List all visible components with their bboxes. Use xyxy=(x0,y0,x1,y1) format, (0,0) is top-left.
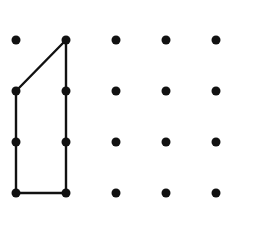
grid-dot-r0-c4 xyxy=(212,36,221,45)
grid-dot-r1-c0 xyxy=(12,87,21,96)
grid-dot-r1-c3 xyxy=(162,87,171,96)
grid-dot-r3-c0 xyxy=(12,189,21,198)
trapezoid-shape xyxy=(16,40,66,193)
grid-dot-r3-c3 xyxy=(162,189,171,198)
grid-dot-r2-c2 xyxy=(112,138,121,147)
grid-dot-r0-c1 xyxy=(62,36,71,45)
grid-dot-r3-c2 xyxy=(112,189,121,198)
grid-dot-r1-c4 xyxy=(212,87,221,96)
grid-dot-r3-c1 xyxy=(62,189,71,198)
grid-dot-r0-c0 xyxy=(12,36,21,45)
grid-dot-r0-c3 xyxy=(162,36,171,45)
grid-dot-r2-c1 xyxy=(62,138,71,147)
grid-dot-r2-c4 xyxy=(212,138,221,147)
grid-dot-r1-c1 xyxy=(62,87,71,96)
grid-dot-r2-c3 xyxy=(162,138,171,147)
dot-grid xyxy=(12,36,221,198)
grid-dot-r0-c2 xyxy=(112,36,121,45)
grid-dot-r2-c0 xyxy=(12,138,21,147)
dot-grid-diagram xyxy=(0,0,255,234)
grid-dot-r1-c2 xyxy=(112,87,121,96)
grid-dot-r3-c4 xyxy=(212,189,221,198)
